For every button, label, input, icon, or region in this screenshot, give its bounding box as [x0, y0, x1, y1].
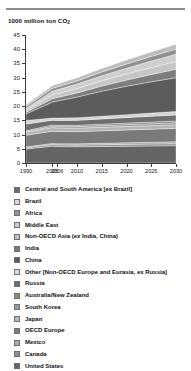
legend-swatch-icon	[14, 281, 20, 287]
x-axis-tick	[26, 164, 27, 167]
legend-item[interactable]: Mexico	[14, 337, 189, 349]
legend-swatch-icon	[14, 246, 20, 252]
x-axis-tick-label: 2010	[71, 168, 83, 174]
x-axis-line	[25, 163, 176, 164]
y-axis-tick-label: 40	[2, 46, 20, 52]
y-axis-tick	[22, 149, 25, 150]
y-axis-tick-label: 45	[2, 32, 20, 38]
legend-item-label: OECD Europe	[25, 327, 65, 334]
legend-swatch-icon	[14, 340, 20, 346]
y-axis-tick-label: 0	[2, 160, 20, 166]
x-axis-tick	[127, 164, 128, 167]
y-axis-tick	[22, 78, 25, 79]
legend-item-label: Russia	[25, 280, 45, 287]
y-axis-tick	[22, 63, 25, 64]
legend-swatch-icon	[14, 316, 20, 322]
legend-item[interactable]: Africa	[14, 208, 189, 220]
legend-item[interactable]: China	[14, 255, 189, 267]
legend-item[interactable]: Non-OECD Asia (ex India, China)	[14, 231, 189, 243]
x-axis-tick-label: 2025	[145, 168, 157, 174]
y-axis-tick-label: 25	[2, 89, 20, 95]
legend-item-label: Non-OECD Asia (ex India, China)	[25, 233, 118, 240]
stacked-area-plot	[26, 35, 176, 163]
legend-item-label: United States	[25, 363, 63, 370]
y-axis-tick-label: 15	[2, 117, 20, 123]
legend-item[interactable]: Australia/New Zealand	[14, 290, 189, 302]
y-axis-tick	[22, 35, 25, 36]
legend-item[interactable]: Russia	[14, 278, 189, 290]
y-axis-tick-label: 20	[2, 103, 20, 109]
legend-item-label: Australia/New Zealand	[25, 292, 89, 299]
x-axis-tick	[77, 164, 78, 167]
y-axis-tick	[22, 135, 25, 136]
legend-swatch-icon	[14, 199, 20, 205]
y-axis-tick	[22, 120, 25, 121]
y-axis-tick	[22, 49, 25, 50]
legend-swatch-icon	[14, 222, 20, 228]
x-axis-tick	[176, 164, 177, 167]
legend-item[interactable]: India	[14, 243, 189, 255]
legend-swatch-icon	[14, 351, 20, 357]
x-axis-tick-label: 1990	[20, 168, 32, 174]
legend-swatch-icon	[14, 187, 20, 193]
x-axis-tick-label: 2030	[170, 168, 182, 174]
legend-swatch-icon	[14, 363, 20, 369]
legend-item-label: Middle East	[25, 222, 58, 229]
x-axis-tick	[57, 164, 58, 167]
y-axis-tick-label: 10	[2, 132, 20, 138]
legend-item[interactable]: Brazil	[14, 196, 189, 208]
legend-swatch-icon	[14, 328, 20, 334]
area-band	[26, 146, 176, 163]
legend-item-label: China	[25, 257, 42, 264]
legend-item[interactable]: OECD Europe	[14, 325, 189, 337]
y-axis-tick-label: 30	[2, 75, 20, 81]
legend-swatch-icon	[14, 234, 20, 240]
legend-swatch-icon	[14, 257, 20, 263]
legend-swatch-icon	[14, 210, 20, 216]
legend-swatch-icon	[14, 304, 20, 310]
legend-item[interactable]: Japan	[14, 313, 189, 325]
legend-item-label: Mexico	[25, 339, 45, 346]
chart-legend: Central and South America [ex Brazil]Bra…	[14, 184, 189, 371]
chart-plot-region: 051015202530354045 199020052006201020152…	[0, 0, 191, 180]
legend-swatch-icon	[14, 269, 20, 275]
legend-item-label: India	[25, 245, 39, 252]
x-axis-tick	[151, 164, 152, 167]
legend-item[interactable]: South Korea	[14, 302, 189, 314]
x-axis-tick	[102, 164, 103, 167]
legend-item-label: Japan	[25, 316, 42, 323]
y-axis-tick	[22, 92, 25, 93]
legend-item[interactable]: United States	[14, 360, 189, 371]
legend-swatch-icon	[14, 293, 20, 299]
legend-item[interactable]: Canada	[14, 349, 189, 361]
legend-item-label: Africa	[25, 210, 42, 217]
y-axis-tick-label: 35	[2, 60, 20, 66]
legend-item-label: Canada	[25, 351, 47, 358]
y-axis-tick-label: 5	[2, 146, 20, 152]
legend-item-label: South Korea	[25, 304, 61, 311]
legend-item[interactable]: Other [Non-OECD Europe and Eurasia, ex R…	[14, 266, 189, 278]
y-axis-tick	[22, 163, 25, 164]
x-axis-tick	[52, 164, 53, 167]
x-axis-tick-label: 2006	[51, 168, 63, 174]
y-axis-tick	[22, 106, 25, 107]
legend-item[interactable]: Central and South America [ex Brazil]	[14, 184, 189, 196]
legend-item[interactable]: Middle East	[14, 219, 189, 231]
legend-item-label: Other [Non-OECD Europe and Eurasia, ex R…	[25, 269, 167, 276]
legend-item-label: Central and South America [ex Brazil]	[25, 186, 132, 193]
x-axis-tick-label: 2015	[96, 168, 108, 174]
legend-item-label: Brazil	[25, 198, 41, 205]
stacked-area-svg	[26, 35, 176, 163]
x-axis-tick-label: 2020	[120, 168, 132, 174]
